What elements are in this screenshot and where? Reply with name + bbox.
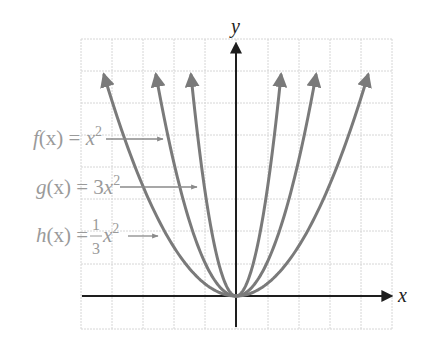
curve-h-left <box>104 75 236 296</box>
y-axis-label: y <box>229 15 240 38</box>
x-axis-label: x <box>397 284 407 306</box>
svg-text:h(x) =: h(x) = <box>36 223 88 247</box>
label-f-exp: 2 <box>95 124 102 139</box>
label-h-fn: h <box>36 223 47 247</box>
label-h-num: 1 <box>92 216 100 233</box>
svg-text:f(x) = x2: f(x) = x2 <box>33 124 102 150</box>
curve-h-right <box>236 75 368 296</box>
parabola-chart: y x f(x) = x2 g(x) = 3x2 h(x) = 1 3 x2 <box>0 0 429 361</box>
label-g-arg: (x) = <box>47 175 94 199</box>
curve-g-left <box>191 75 236 296</box>
label-h-arg: (x) = <box>47 223 89 247</box>
label-f-arg: (x) = <box>39 126 86 150</box>
svg-text:x2: x2 <box>102 221 119 247</box>
label-g-exp: 2 <box>113 173 120 188</box>
label-g-coef: 3 <box>93 175 104 199</box>
label-h: h(x) = 1 3 x2 <box>36 216 158 257</box>
label-g: g(x) = 3x2 <box>36 173 197 199</box>
label-h-exp: 2 <box>112 221 119 236</box>
label-h-den: 3 <box>92 240 100 257</box>
axes: y x <box>82 15 407 327</box>
curve-g-right <box>236 75 281 296</box>
svg-text:g(x) = 3x2: g(x) = 3x2 <box>36 173 120 199</box>
label-g-fn: g <box>36 175 47 199</box>
